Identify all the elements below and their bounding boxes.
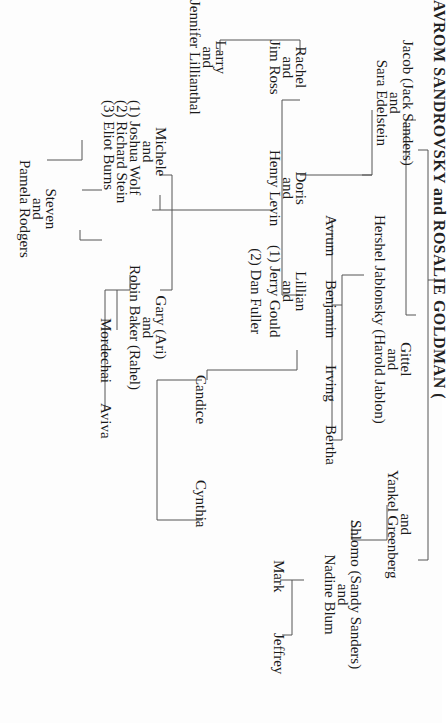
node-doris: Doris and Henry Levin bbox=[268, 150, 307, 226]
node-lillian: Lillian and (1) Jerry Gould (2) Dan Full… bbox=[249, 245, 307, 337]
spouse-name: (2) Dan Fuller bbox=[249, 245, 262, 337]
node-michele: Michele and (1) Joshua Wolf (2) Richard … bbox=[102, 100, 167, 203]
node-gittel: Gittel and Hershel Jablonsky (Harold Jab… bbox=[373, 215, 412, 424]
person-name: Gittel bbox=[399, 215, 412, 424]
node-bertha: Bertha bbox=[324, 425, 337, 465]
spouse-name: Robin Baker (Rahel) bbox=[128, 265, 141, 390]
spouse-name: Nadine Blum bbox=[323, 520, 336, 669]
node-gary: Gary (Ari) and Robin Baker (Rahel) bbox=[128, 265, 167, 390]
node-avrum: Avrum bbox=[324, 215, 337, 256]
spouse-name: (1) Jerry Gould bbox=[268, 245, 281, 337]
node-candice: Candice bbox=[194, 375, 207, 424]
person-name: Yankel Greenberg bbox=[386, 470, 399, 579]
spouse-name: Jennifer Lillianthal bbox=[188, 0, 201, 115]
spouse-name: (3) Eliot Burns bbox=[102, 100, 115, 203]
node-jeffrey: Jeffrey bbox=[272, 633, 285, 674]
node-aviva: Aviva bbox=[99, 403, 112, 439]
spouse-name: Pamela Rodgers bbox=[18, 160, 31, 258]
spouse-name: Henry Levin bbox=[268, 150, 281, 226]
spouse-name: Jim Ross bbox=[268, 40, 281, 95]
node-benjamin: Benjamin bbox=[324, 280, 337, 338]
node-mordechai: Mordechai bbox=[99, 318, 112, 383]
node-shlomo: Shlomo (Sandy Sanders) and Nadine Blum bbox=[323, 520, 362, 669]
node-irving: Irving bbox=[324, 365, 337, 402]
node-jacob: Jacob (Jack Sanders) and Sara Edelstein bbox=[375, 40, 414, 166]
spouse-name: Sara Edelstein bbox=[375, 40, 388, 166]
node-steven: Steven and Pamela Rodgers bbox=[18, 160, 57, 258]
node-larry: Larry and Jennifer Lillianthal bbox=[188, 0, 227, 115]
node-mark: Mark bbox=[272, 560, 285, 593]
node-yankel: and Yankel Greenberg bbox=[386, 470, 412, 579]
spouse-name: Hershel Jablonsky (Harold Jablon) bbox=[373, 215, 386, 424]
node-rachel: Rachel and Jim Ross bbox=[268, 40, 307, 95]
node-cynthia: Cynthia bbox=[194, 480, 207, 528]
